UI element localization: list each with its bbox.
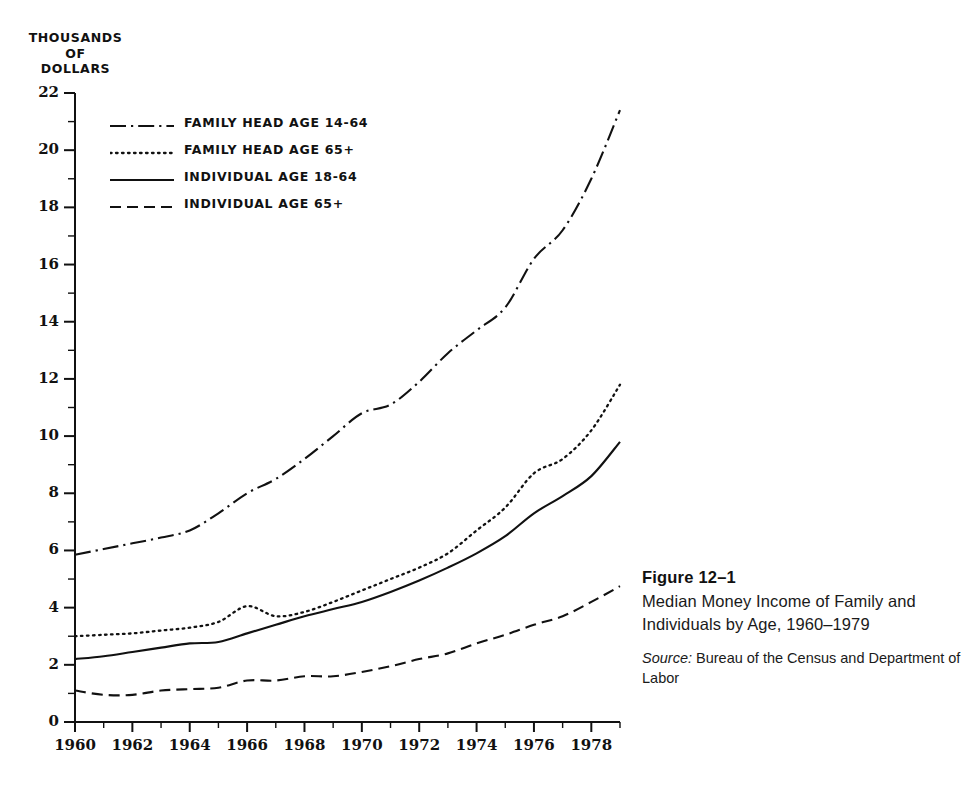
legend-label: FAMILY HEAD AGE 65+ (184, 142, 355, 157)
caption-title: Figure 12–1 (642, 568, 962, 587)
x-tick-label: 1960 (48, 736, 102, 754)
legend-label: FAMILY HEAD AGE 14-64 (184, 115, 368, 130)
x-tick-marks (75, 722, 620, 732)
x-tick-label: 1976 (507, 736, 561, 754)
x-tick-label: 1964 (163, 736, 217, 754)
y-tick-label: 18 (31, 197, 59, 215)
x-tick-label: 1978 (564, 736, 618, 754)
x-tick-label: 1972 (392, 736, 446, 754)
y-tick-label: 16 (31, 255, 59, 273)
x-tick-label: 1966 (220, 736, 274, 754)
y-tick-label: 12 (31, 369, 59, 387)
series-line-3 (75, 586, 620, 695)
y-tick-label: 4 (31, 598, 59, 616)
legend-item[interactable]: INDIVIDUAL AGE 18-64 (110, 166, 410, 193)
x-tick-label: 1968 (277, 736, 331, 754)
legend-item[interactable]: INDIVIDUAL AGE 65+ (110, 193, 410, 220)
figure-container: THOUSANDS OF DOLLARS 0246810121416182022… (0, 0, 977, 788)
series-line-2 (75, 442, 620, 659)
source-label: Source: (642, 650, 692, 666)
dashdot-line-sample (110, 124, 174, 127)
caption-body: Median Money Income of Family and Indivi… (642, 590, 962, 635)
y-tick-label: 10 (31, 426, 59, 444)
x-tick-label: 1962 (105, 736, 159, 754)
y-tick-label: 6 (31, 540, 59, 558)
caption-source: Source: Bureau of the Census and Departm… (642, 648, 962, 688)
chart-plot-area: 0246810121416182022 19601962196419661968… (0, 0, 640, 788)
y-tick-label: 0 (31, 712, 59, 730)
dotted-line-sample (110, 151, 174, 154)
y-tick-label: 22 (31, 83, 59, 101)
y-tick-marks (64, 93, 75, 722)
x-tick-label: 1970 (335, 736, 389, 754)
legend-item[interactable]: FAMILY HEAD AGE 14-64 (110, 112, 410, 139)
solid-line-sample (110, 178, 174, 181)
chart-legend: FAMILY HEAD AGE 14-64FAMILY HEAD AGE 65+… (110, 112, 410, 220)
figure-caption: Figure 12–1 Median Money Income of Famil… (642, 568, 962, 688)
legend-label: INDIVIDUAL AGE 18-64 (184, 169, 357, 184)
legend-item[interactable]: FAMILY HEAD AGE 65+ (110, 139, 410, 166)
x-tick-label: 1974 (450, 736, 504, 754)
y-tick-label: 20 (31, 140, 59, 158)
y-tick-label: 2 (31, 655, 59, 673)
dashed-line-sample (110, 205, 174, 208)
y-tick-label: 14 (31, 312, 59, 330)
y-tick-label: 8 (31, 483, 59, 501)
legend-label: INDIVIDUAL AGE 65+ (184, 196, 344, 211)
